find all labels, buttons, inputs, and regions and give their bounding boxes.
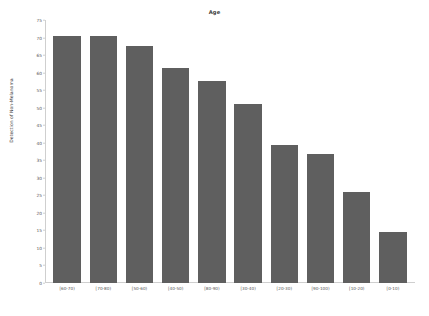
y-tick-label: 35 <box>37 158 42 163</box>
y-tick-label: 20 <box>37 210 42 215</box>
x-tick-label: [80-90) <box>194 286 230 291</box>
bar[interactable] <box>198 81 226 283</box>
bar-slot <box>49 20 85 283</box>
x-tick-label: [10-20) <box>339 286 375 291</box>
chart-title: Age <box>0 9 429 15</box>
bar[interactable] <box>343 192 371 283</box>
x-tick-label: [90-100) <box>302 286 338 291</box>
plot-area: 757065605550454035302520151050 <box>45 20 415 283</box>
bar[interactable] <box>53 36 81 283</box>
bar[interactable] <box>379 232 407 283</box>
y-tick-label: 15 <box>37 228 42 233</box>
bar[interactable] <box>162 68 190 283</box>
bar-slot <box>375 20 411 283</box>
x-tick-label: [20-30) <box>266 286 302 291</box>
y-tick-label: 5 <box>39 263 42 268</box>
chart-figure: Age Detection of Non-Melanoma 7570656055… <box>0 0 429 316</box>
x-tick-label: [70-80) <box>85 286 121 291</box>
bar-slot <box>194 20 230 283</box>
bar[interactable] <box>126 46 154 283</box>
y-axis-label: Detection of Non-Melanoma <box>9 56 14 166</box>
y-tick-label: 40 <box>37 140 42 145</box>
x-tick-label: [40-50) <box>158 286 194 291</box>
bar-slot <box>121 20 157 283</box>
y-tick-label: 70 <box>37 35 42 40</box>
x-tick-label: [60-70) <box>49 286 85 291</box>
bar[interactable] <box>90 36 118 283</box>
bar-slot <box>302 20 338 283</box>
y-tick-label: 50 <box>37 105 42 110</box>
y-tick-label: 55 <box>37 88 42 93</box>
bar-slot <box>266 20 302 283</box>
y-tick-label: 75 <box>37 18 42 23</box>
bar-slot <box>339 20 375 283</box>
x-tick-label: [0-10) <box>375 286 411 291</box>
bar-slot <box>230 20 266 283</box>
x-tick-label: [50-60) <box>121 286 157 291</box>
bar-slot <box>158 20 194 283</box>
y-tick-label: 0 <box>39 281 42 286</box>
x-axis-tick-labels: [60-70)[70-80)[50-60)[40-50)[80-90)[30-4… <box>45 286 415 291</box>
y-tick-label: 45 <box>37 123 42 128</box>
y-tick-label: 30 <box>37 175 42 180</box>
y-tick-label: 25 <box>37 193 42 198</box>
y-tick-label: 10 <box>37 245 42 250</box>
bar[interactable] <box>234 104 262 283</box>
bar[interactable] <box>271 145 299 283</box>
x-tick-label: [30-40) <box>230 286 266 291</box>
bar-series <box>45 20 415 283</box>
bar-slot <box>85 20 121 283</box>
bar[interactable] <box>307 154 335 283</box>
y-tick-label: 60 <box>37 70 42 75</box>
y-tick-label: 65 <box>37 53 42 58</box>
